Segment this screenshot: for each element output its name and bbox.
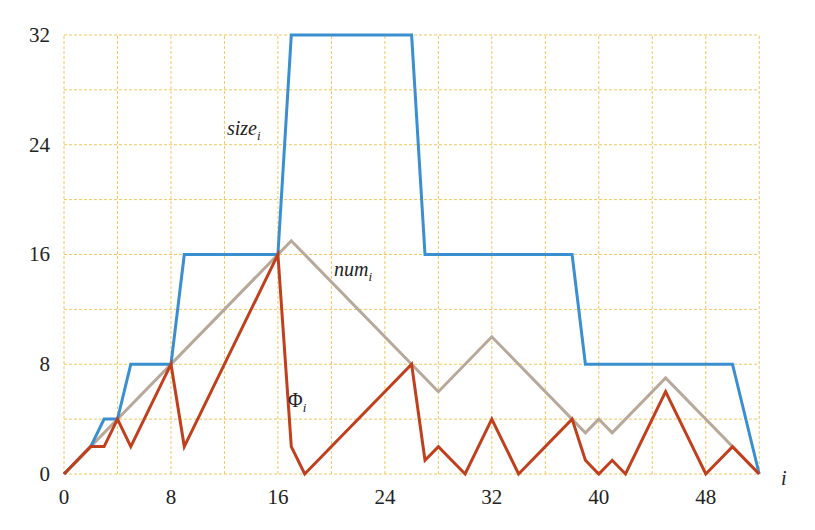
label-num: numi bbox=[334, 258, 372, 284]
x-tick-label: 0 bbox=[59, 485, 70, 509]
y-axis-ticks: 08162432 bbox=[29, 23, 51, 486]
y-tick-label: 8 bbox=[40, 352, 51, 376]
x-tick-label: 32 bbox=[481, 485, 502, 509]
x-axis-ticks: 081624324048 bbox=[59, 485, 717, 509]
x-tick-label: 16 bbox=[267, 485, 288, 509]
x-tick-label: 48 bbox=[695, 485, 716, 509]
x-tick-label: 40 bbox=[588, 485, 609, 509]
y-tick-label: 24 bbox=[29, 133, 51, 157]
y-tick-label: 16 bbox=[29, 242, 50, 266]
chart: 08162432 081624324048 sizei numi Φi i bbox=[0, 0, 815, 530]
series-num-i bbox=[64, 241, 759, 474]
x-axis-label: i bbox=[781, 467, 787, 489]
y-tick-label: 0 bbox=[40, 462, 51, 486]
grid bbox=[64, 35, 759, 474]
label-phi: Φi bbox=[288, 389, 307, 415]
x-tick-label: 24 bbox=[374, 485, 396, 509]
label-size: sizei bbox=[227, 117, 261, 143]
x-tick-label: 8 bbox=[166, 485, 177, 509]
y-tick-label: 32 bbox=[29, 23, 50, 47]
